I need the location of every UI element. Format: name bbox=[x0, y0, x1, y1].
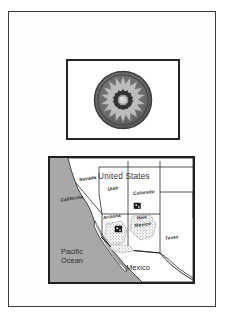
figure-plate: United States Mexico Pacific Ocean Nevad… bbox=[0, 0, 225, 318]
emblem-wrap bbox=[68, 61, 178, 138]
label-mexico-country: Mexico bbox=[126, 263, 150, 272]
label-pacific-ocean-line1: Pacific bbox=[61, 247, 83, 256]
flag-emblem-panel bbox=[66, 59, 180, 140]
label-united-states: United States bbox=[98, 172, 150, 181]
page-border: United States Mexico Pacific Ocean Nevad… bbox=[8, 11, 216, 307]
locator-map-svg: United States Mexico Pacific Ocean Nevad… bbox=[50, 158, 193, 282]
sunburst-rosette-icon bbox=[92, 69, 154, 131]
emblem-center-dot bbox=[119, 95, 127, 103]
emblem-center-highlight bbox=[121, 97, 123, 99]
site-marker-arizona bbox=[115, 226, 122, 232]
site-marker-new-mexico bbox=[134, 203, 140, 209]
locator-map-panel: United States Mexico Pacific Ocean Nevad… bbox=[48, 156, 195, 284]
label-pacific-ocean-line2: Ocean bbox=[61, 256, 83, 265]
